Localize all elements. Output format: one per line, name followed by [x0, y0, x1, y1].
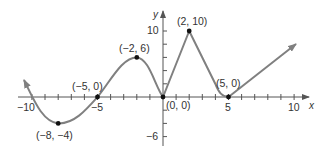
y-axis-label: y	[152, 9, 159, 20]
annotation-5-0: (5, 0)	[216, 77, 241, 89]
x-tick-label-neg5: −5	[91, 101, 103, 113]
y-ticks	[163, 31, 167, 137]
annotation-2-10: (2, 10)	[177, 15, 207, 27]
annotation-m2-6: (−2, 6)	[119, 42, 150, 54]
point-5-0	[226, 95, 231, 100]
function-graph: x y −10 −5 5 10 10 −6 (−8, −4) (−5, 0) (…	[0, 0, 325, 156]
x-axis-label: x	[308, 100, 315, 111]
annotation-0-0: (0, 0)	[166, 99, 191, 111]
x-tick-label-10: 10	[288, 101, 300, 113]
point-m8-m4	[56, 121, 61, 126]
point-m5-0	[95, 95, 100, 100]
x-tick-label-neg10: −10	[17, 101, 35, 113]
y-tick-label-10: 10	[147, 24, 159, 36]
y-tick-label-neg6: −6	[146, 130, 158, 142]
point-0-0	[161, 95, 166, 100]
point-m2-6	[134, 55, 139, 60]
x-tick-label-5: 5	[225, 101, 231, 113]
point-2-10	[187, 29, 192, 34]
annotation-m8-m4: (−8, −4)	[36, 129, 73, 141]
function-curve	[24, 31, 296, 123]
annotation-m5-0: (−5, 0)	[72, 80, 103, 92]
